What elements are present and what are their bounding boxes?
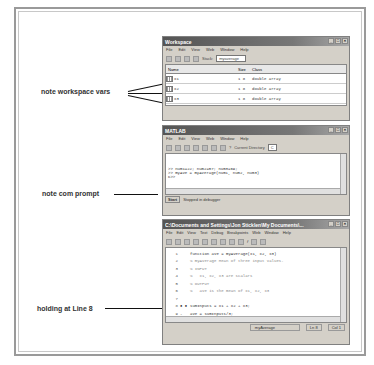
editor-titlebar[interactable]: C:\Documents and Settings\Jon Sticklen\M…	[163, 220, 349, 229]
clear-breakpoint-icon[interactable]	[260, 239, 266, 245]
cut-icon[interactable]	[193, 239, 199, 245]
import-icon[interactable]	[184, 56, 190, 62]
menu-help[interactable]: Help	[283, 230, 291, 235]
print-icon[interactable]	[229, 239, 235, 245]
code-line: 4% x1, x2, x3 are scalars	[166, 273, 346, 281]
find-icon[interactable]	[238, 239, 244, 245]
close-icon[interactable]: ×	[342, 221, 348, 227]
stack-label: Stack:	[202, 56, 213, 61]
col-class[interactable]: Class	[252, 67, 262, 72]
menu-debug[interactable]: Debug	[211, 230, 223, 235]
new-icon[interactable]	[166, 145, 172, 151]
menubar: File Edit View Web Window Help	[163, 46, 349, 53]
menu-view[interactable]: View	[187, 230, 196, 235]
cut-icon[interactable]	[184, 145, 190, 151]
menu-file[interactable]: File	[166, 230, 172, 235]
menu-file[interactable]: File	[166, 136, 172, 141]
menu-text[interactable]: Text	[200, 230, 207, 235]
paste-icon[interactable]	[211, 239, 217, 245]
vertical-scrollbar[interactable]	[340, 154, 346, 194]
open-icon[interactable]	[166, 56, 172, 62]
breakpoint-marker-icon[interactable]: ● ●	[180, 304, 190, 308]
table-row[interactable]: x3 1 8 double array	[166, 94, 346, 104]
delete-icon[interactable]	[193, 56, 199, 62]
status-column: Col 1	[328, 324, 345, 331]
window-title: Workspace	[165, 39, 192, 45]
current-directory-select[interactable]: C	[268, 144, 277, 151]
function-icon[interactable]: f	[247, 239, 248, 244]
arrow	[128, 93, 163, 94]
col-name[interactable]: Name	[166, 67, 238, 72]
start-button[interactable]: Start	[165, 196, 180, 203]
vertical-scrollbar[interactable]	[340, 248, 346, 322]
minimize-icon[interactable]: _	[328, 221, 334, 227]
horizontal-scrollbar[interactable]	[166, 316, 340, 322]
breakpoint-icon[interactable]	[251, 239, 257, 245]
code-line: 1function ave = myAverage(x1, x2, x3)	[166, 250, 346, 258]
save-icon[interactable]	[184, 239, 190, 245]
code-line: 2% myAverage Mean of three input values.	[166, 258, 346, 266]
undo-icon[interactable]	[220, 239, 226, 245]
menubar: File Edit View Web Window Help	[163, 135, 349, 142]
window-title: MATLAB	[165, 128, 186, 134]
paste-icon[interactable]	[202, 145, 208, 151]
code-line-breakpoint: 8● ●sumInputs = x1 + x2 + x3;	[166, 303, 346, 311]
simulink-icon[interactable]	[220, 145, 226, 151]
command-line: >> myAve = myAverage(num1, num2, num3)	[168, 171, 259, 175]
matlab-titlebar[interactable]: MATLAB _□×	[163, 126, 349, 135]
workspace-titlebar[interactable]: Workspace _□×	[163, 37, 349, 46]
command-window[interactable]: >> num1=22; num2=57; num3=69; >> myAve =…	[165, 153, 347, 195]
menu-window[interactable]: Window	[220, 47, 234, 52]
menu-view[interactable]: View	[191, 136, 200, 141]
menu-edit[interactable]: Edit	[178, 47, 185, 52]
code-editor[interactable]: 1function ave = myAverage(x1, x2, x3) 2%…	[165, 247, 347, 323]
close-icon[interactable]: ×	[342, 38, 348, 44]
maximize-icon[interactable]: □	[335, 127, 341, 133]
menu-file[interactable]: File	[166, 47, 172, 52]
menu-web[interactable]: Web	[252, 230, 260, 235]
annotation-workspace: note workspace vars	[41, 88, 110, 95]
save-icon[interactable]	[175, 56, 181, 62]
current-directory-label: Current Directory	[234, 145, 264, 150]
workspace-table: Name Size Class x1 1 8 double array x2 1…	[165, 64, 347, 106]
help-icon[interactable]: ?	[229, 145, 231, 150]
close-icon[interactable]: ×	[342, 127, 348, 133]
menu-help[interactable]: Help	[240, 47, 248, 52]
menubar: File Edit View Text Debug Breakpoints We…	[163, 229, 349, 236]
menu-edit[interactable]: Edit	[176, 230, 183, 235]
array-icon	[166, 96, 173, 102]
col-size[interactable]: Size	[238, 67, 252, 72]
annotation-prompt: note com prompt	[42, 190, 99, 197]
window-title: C:\Documents and Settings\Jon Sticklen\M…	[165, 222, 325, 228]
undo-icon[interactable]	[211, 145, 217, 151]
toolbar: f	[163, 236, 349, 247]
maximize-icon[interactable]: □	[335, 221, 341, 227]
menu-web[interactable]: Web	[206, 47, 214, 52]
copy-icon[interactable]	[202, 239, 208, 245]
menu-view[interactable]: View	[191, 47, 200, 52]
arrow	[114, 194, 158, 195]
copy-icon[interactable]	[193, 145, 199, 151]
arrow	[105, 308, 165, 309]
stack-select[interactable]: myaverage	[216, 55, 246, 62]
editor-window: C:\Documents and Settings\Jon Sticklen\M…	[162, 219, 350, 345]
table-row[interactable]: x2 1 8 double array	[166, 84, 346, 94]
minimize-icon[interactable]: _	[328, 38, 334, 44]
menu-window[interactable]: Window	[264, 230, 278, 235]
open-icon[interactable]	[175, 239, 181, 245]
command-prompt: K>>	[168, 175, 259, 179]
table-row[interactable]: x1 1 8 double array	[166, 74, 346, 84]
menu-web[interactable]: Web	[206, 136, 214, 141]
array-icon	[166, 86, 173, 92]
menu-breakpoints[interactable]: Breakpoints	[227, 230, 248, 235]
menu-window[interactable]: Window	[220, 136, 234, 141]
minimize-icon[interactable]: _	[328, 127, 334, 133]
new-icon[interactable]	[166, 239, 172, 245]
horizontal-scrollbar[interactable]	[166, 188, 340, 194]
menu-help[interactable]: Help	[240, 136, 248, 141]
menu-edit[interactable]: Edit	[178, 136, 185, 141]
open-icon[interactable]	[175, 145, 181, 151]
maximize-icon[interactable]: □	[335, 38, 341, 44]
code-line: 3% INPUT	[166, 265, 346, 273]
status-function: myAverage	[250, 324, 300, 331]
